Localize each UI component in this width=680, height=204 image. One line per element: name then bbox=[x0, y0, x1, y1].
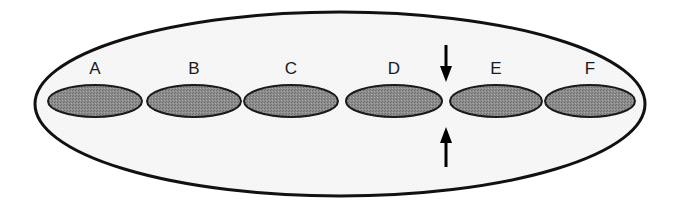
segment-label: E bbox=[490, 59, 501, 78]
segmented-ellipse-diagram: ABCDEF bbox=[0, 0, 680, 204]
segment-ellipse bbox=[450, 85, 542, 117]
segment-ellipse bbox=[48, 85, 142, 117]
segment-label: F bbox=[585, 59, 595, 78]
segment-label: D bbox=[388, 59, 400, 78]
segment-label: A bbox=[89, 59, 101, 78]
segment-ellipse bbox=[346, 85, 442, 117]
segment-ellipse bbox=[244, 85, 338, 117]
segment-ellipse bbox=[147, 85, 241, 117]
segment-ellipse bbox=[545, 85, 635, 117]
segment-label: C bbox=[285, 59, 297, 78]
segment-label: B bbox=[188, 59, 199, 78]
